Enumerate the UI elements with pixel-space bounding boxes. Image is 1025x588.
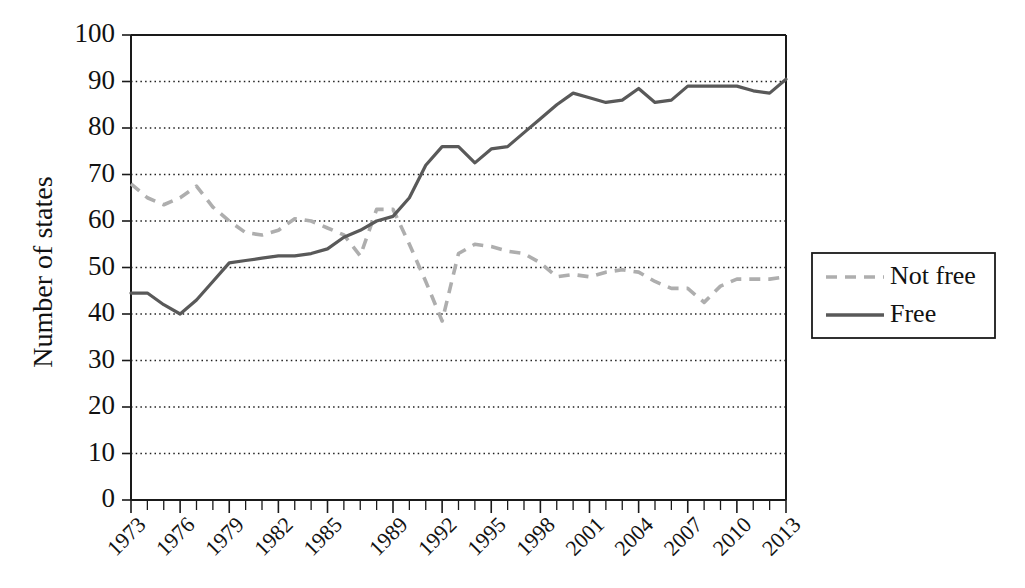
y-tick-label-10: 10 <box>88 437 115 467</box>
legend-label-free: Free <box>890 299 936 328</box>
chart-container: 0102030405060708090100 19731976197919821… <box>0 0 1025 588</box>
y-tick-label-70: 70 <box>88 158 115 188</box>
y-axis-title: Number of states <box>27 176 58 367</box>
x-tick-label-1985: 1985 <box>298 512 347 561</box>
y-axis-tick-labels: 0102030405060708090100 <box>75 18 116 513</box>
x-tick-label-1979: 1979 <box>200 512 249 561</box>
x-tick-label-2013: 2013 <box>757 512 806 561</box>
x-tick-label-2001: 2001 <box>560 512 609 561</box>
x-axis-tick-labels: 1973197619791982198519891992199519982001… <box>102 512 806 561</box>
y-tick-label-20: 20 <box>88 390 115 420</box>
x-tick-label-1989: 1989 <box>364 512 413 561</box>
y-tick-label-100: 100 <box>75 18 116 48</box>
data-series-group <box>131 79 786 321</box>
x-axis-ticks <box>131 500 786 513</box>
x-tick-label-2010: 2010 <box>708 512 757 561</box>
line-chart: 0102030405060708090100 19731976197919821… <box>0 0 1025 588</box>
x-tick-label-1998: 1998 <box>511 512 560 561</box>
x-tick-label-1982: 1982 <box>249 512 298 561</box>
y-tick-label-30: 30 <box>88 344 115 374</box>
y-tick-label-60: 60 <box>88 204 115 234</box>
y-tick-label-80: 80 <box>88 111 115 141</box>
y-tick-label-50: 50 <box>88 251 115 281</box>
legend-label-not-free: Not free <box>890 261 976 290</box>
plot-frame <box>131 35 786 500</box>
chart-legend: Not freeFree <box>812 253 995 338</box>
x-tick-label-1976: 1976 <box>151 512 200 561</box>
y-axis-ticks <box>122 35 131 500</box>
y-tick-label-0: 0 <box>102 483 116 513</box>
y-tick-label-40: 40 <box>88 297 115 327</box>
x-tick-label-1992: 1992 <box>413 512 462 561</box>
x-tick-label-2007: 2007 <box>658 512 707 561</box>
y-tick-label-90: 90 <box>88 65 115 95</box>
series-line-not-free <box>131 184 786 321</box>
x-tick-label-1995: 1995 <box>462 512 511 561</box>
gridlines-group <box>131 82 786 454</box>
x-tick-label-1973: 1973 <box>102 512 151 561</box>
x-tick-label-2004: 2004 <box>609 512 658 561</box>
series-line-free <box>131 79 786 314</box>
